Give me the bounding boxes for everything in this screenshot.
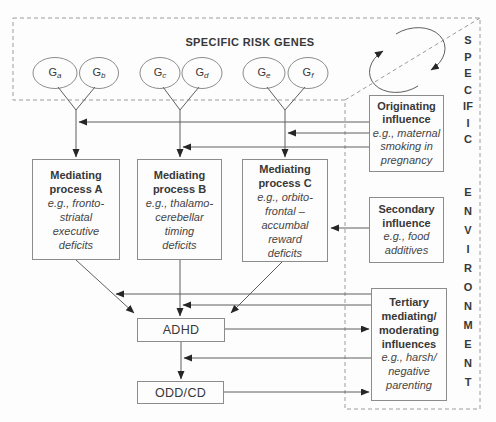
gene-a-subscript: a xyxy=(57,71,61,80)
originating-influence-example: e.g., maternal smoking in pregnancy xyxy=(373,127,440,168)
originating-influence-box: Originating influence e.g., maternal smo… xyxy=(369,95,444,172)
gene-c-label: Gc xyxy=(154,66,167,80)
gene-panel-title: SPECIFIC RISK GENES xyxy=(150,36,350,48)
secondary-influence-heading: Secondary influence xyxy=(378,203,434,230)
mediating-process-b-box: Mediating process B e.g., thalamo- cereb… xyxy=(137,159,222,260)
gene-e-symbol: G xyxy=(257,66,266,78)
gene-ellipses xyxy=(33,58,328,89)
odd-cd-box: ODD/CD xyxy=(137,381,224,404)
adhd-box: ADHD xyxy=(137,318,225,342)
tertiary-influences-box: Tertiary mediating/ moderating influence… xyxy=(371,288,447,401)
mediating-process-b-heading: Mediating process B xyxy=(153,168,206,196)
diagram-canvas: SPECIFIC RISK GENES Ga Gb Gc Gd Ge Gf Me… xyxy=(0,0,496,422)
mediating-process-c-box: Mediating process C e.g., orbito- fronta… xyxy=(242,159,328,262)
mediating-process-c-heading: Mediating process C xyxy=(258,162,311,190)
tertiary-influences-heading: Tertiary mediating/ moderating influence… xyxy=(379,296,439,351)
mediating-process-a-heading: Mediating process A xyxy=(50,168,103,196)
mediating-process-c-example: e.g., orbito- frontal – accumbal reward … xyxy=(257,190,313,260)
gene-d-symbol: G xyxy=(195,66,204,78)
mediating-process-a-box: Mediating process A e.g., fronto- striat… xyxy=(32,159,120,260)
gene-a-label: Ga xyxy=(48,66,61,80)
originating-influence-heading: Originating influence xyxy=(377,100,436,127)
secondary-influence-box: Secondary influence e.g., food additives xyxy=(369,197,444,263)
secondary-influence-example: e.g., food additives xyxy=(384,230,430,257)
gene-a-symbol: G xyxy=(48,66,57,78)
gene-b-subscript: b xyxy=(101,71,105,80)
mediating-process-a-example: e.g., fronto- striatal executive deficit… xyxy=(48,196,104,252)
cycle-arrows-icon xyxy=(370,28,446,93)
gene-f-symbol: G xyxy=(303,66,312,78)
process-a-to-adhd-arrow xyxy=(76,260,134,313)
environment-label-specific: SPECIFIC xyxy=(463,32,473,148)
environment-label-environment: ENVIRONMENT xyxy=(463,183,473,392)
gene-b-label: Gb xyxy=(92,66,105,80)
cycle-arc-left xyxy=(370,51,418,92)
gene-e-subscript: e xyxy=(266,71,270,80)
gene-c-symbol: G xyxy=(154,66,163,78)
gene-d-label: Gd xyxy=(195,66,208,80)
odd-cd-label: ODD/CD xyxy=(155,386,206,400)
mediating-process-b-example: e.g., thalamo- cerebellar timing deficit… xyxy=(146,196,213,252)
gene-pair-ef-merge xyxy=(267,87,305,110)
gene-pair-cd-merge xyxy=(163,87,199,110)
adhd-label: ADHD xyxy=(163,323,200,337)
gene-f-label: Gf xyxy=(303,66,314,80)
dashed-diagonal-divider xyxy=(345,18,480,100)
tertiary-influences-example: e.g., harsh/ negative parenting xyxy=(381,351,436,392)
gene-f-subscript: f xyxy=(311,71,313,80)
gene-d-subscript: d xyxy=(204,71,208,80)
gene-pair-ab-merge xyxy=(58,87,95,110)
cycle-arc-right xyxy=(396,28,445,70)
gene-c-subscript: c xyxy=(162,71,166,80)
gene-e-label: Ge xyxy=(257,66,270,80)
gene-b-symbol: G xyxy=(92,66,101,78)
